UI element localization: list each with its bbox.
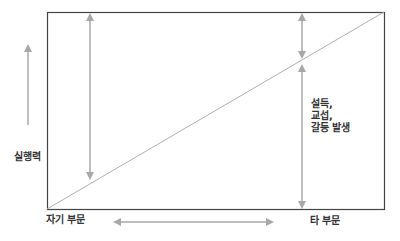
x-right-label: 타 부문 [310,215,340,227]
x-left-label: 자기 부문 [46,214,85,226]
annotation-line-2: 교섭, [311,110,350,122]
conflict-annotation: 설득, 교섭, 갈등 발생 [311,98,350,134]
annotation-line-3: 갈등 발생 [311,122,350,134]
y-axis-label: 실행력 [14,151,41,163]
annotation-line-1: 설득, [311,98,350,110]
